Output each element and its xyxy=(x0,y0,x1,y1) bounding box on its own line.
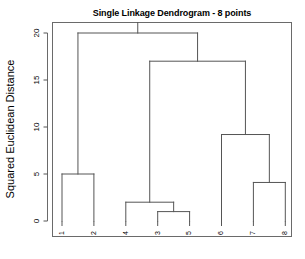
dendrogram-plot: Single Linkage Dendrogram - 8 points Squ… xyxy=(0,0,305,259)
leaf-label: 6 xyxy=(217,231,224,235)
y-tick-group: 05101520 xyxy=(32,28,47,223)
y-tick-label: 0 xyxy=(32,218,41,223)
leaf-label: 2 xyxy=(90,231,97,235)
leaf-label: 1 xyxy=(58,231,65,235)
dendrogram-figure: Single Linkage Dendrogram - 8 points Squ… xyxy=(0,0,305,259)
leaf-label: 7 xyxy=(249,231,256,235)
chart-title: Single Linkage Dendrogram - 8 points xyxy=(93,8,252,18)
leaf-label-group: 12435678 xyxy=(58,221,288,235)
leaf-label: 4 xyxy=(122,231,129,235)
leaf-label: 8 xyxy=(281,231,288,235)
y-tick-label: 5 xyxy=(32,171,41,176)
plot-frame xyxy=(53,23,292,237)
dendrogram-tree xyxy=(62,23,285,222)
leaf-label: 5 xyxy=(185,231,192,235)
y-tick-label: 20 xyxy=(32,28,41,37)
leaf-label: 3 xyxy=(154,231,161,235)
y-axis-label: Squared Euclidean Distance xyxy=(4,60,16,199)
y-tick-label: 15 xyxy=(32,75,41,84)
y-tick-label: 10 xyxy=(32,122,41,131)
